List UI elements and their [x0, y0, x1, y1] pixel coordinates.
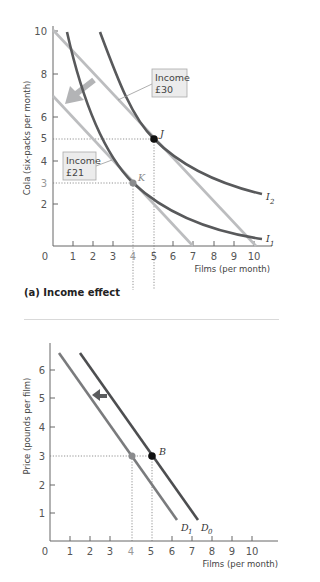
income-box-21: Income £21 — [63, 152, 101, 180]
panel-b-x-tick-3: 3 — [107, 546, 113, 557]
panel-b-y-tick-1: 1 — [39, 508, 45, 519]
label-d1: D 1 — [180, 522, 192, 536]
panel-b-x-tick-2: 2 — [87, 546, 93, 557]
panel-b-y-tick-6: 6 — [39, 365, 45, 376]
panel-b-y-tick-3: 3 — [39, 451, 45, 462]
label-d0: D 0 — [200, 522, 213, 536]
income-box-30: Income £30 — [152, 69, 190, 97]
panel-b-x-axis-label: Films (per month) — [203, 559, 278, 569]
svg-text:£30: £30 — [155, 84, 173, 95]
panel-b-x-tick-4: 4 — [128, 546, 134, 557]
point-demand-d1 — [129, 453, 136, 460]
panel-a-x-tick-8: 8 — [211, 251, 217, 262]
panel-a-y-axis-label: Cola (six-packs per month) — [22, 81, 32, 196]
svg-text:1: 1 — [270, 240, 274, 248]
panel-a-caption: (a) Income effect — [24, 287, 120, 298]
demand-shift-arrow-icon — [92, 389, 107, 401]
panel-b-origin: 0 — [42, 546, 48, 557]
panel-b-x-ticks — [70, 536, 252, 541]
demand-curve-d0 — [80, 353, 198, 520]
svg-text:2: 2 — [269, 198, 275, 206]
panel-b-y-tick-2: 2 — [39, 480, 45, 491]
point-j-label: J — [158, 128, 165, 139]
panel-a-x-tick-6: 6 — [170, 251, 176, 262]
panel-a-y-tick-4: 4 — [41, 156, 47, 167]
label-i2: I 2 — [265, 191, 275, 206]
panel-b-x-tick-6: 6 — [169, 546, 175, 557]
point-b-label: B — [158, 446, 166, 457]
panel-b-y-tick-5: 5 — [39, 393, 45, 404]
panel-b-y-tick-4: 4 — [39, 422, 45, 433]
panel-a-x-tick-10: 10 — [248, 251, 261, 262]
panel-b-guide-lines — [50, 456, 152, 541]
panel-b-x-tick-1: 1 — [67, 546, 73, 557]
panel-a-x-tick-1: 1 — [70, 251, 76, 262]
panel-a-y-tick-5: 5 — [41, 133, 47, 144]
point-j — [150, 135, 158, 143]
svg-text:Income: Income — [66, 155, 101, 166]
panel-divider — [24, 319, 279, 320]
panel-b-x-tick-5: 5 — [148, 546, 154, 557]
panel-a-y-tick-10: 10 — [34, 26, 47, 37]
panel-a-y-tick-3: 3 — [41, 178, 47, 189]
panel-a-x-tick-2: 2 — [90, 251, 96, 262]
indifference-curve-i1 — [67, 32, 262, 239]
point-k-label: K — [137, 172, 146, 183]
svg-text:1: 1 — [188, 528, 192, 536]
panel-b-x-tick-8: 8 — [209, 546, 215, 557]
panel-b-y-axis-label: Price (pounds per film) — [22, 378, 32, 475]
panel-a-y-tick-8: 8 — [41, 69, 47, 80]
panel-a-y-ticks — [53, 31, 58, 204]
panel-b-demand-curve: Price (pounds per film) 6 5 4 3 2 1 0 1 — [22, 343, 278, 569]
panel-a-x-tick-3: 3 — [110, 251, 116, 262]
panel-b-x-tick-10: 10 — [246, 546, 259, 557]
panel-a-origin: 0 — [42, 251, 48, 262]
demand-curve-d1 — [59, 353, 177, 520]
svg-text:£21: £21 — [66, 167, 84, 178]
panel-b-y-ticks — [50, 370, 55, 513]
panel-b-x-tick-9: 9 — [229, 546, 235, 557]
panel-a-income-effect: Cola (six-packs per month) 10 8 6 5 4 3 … — [22, 26, 275, 290]
panel-a-x-tick-7: 7 — [190, 251, 196, 262]
point-b — [148, 452, 156, 460]
panel-a-x-ticks — [73, 241, 254, 246]
panel-a-y-tick-6: 6 — [41, 112, 47, 123]
panel-a-y-tick-2: 2 — [41, 199, 47, 210]
indifference-curve-i2 — [100, 32, 262, 194]
panel-a-x-tick-9: 9 — [231, 251, 237, 262]
svg-text:0: 0 — [208, 528, 213, 536]
panel-a-x-axis-label: Films (per month) — [195, 264, 270, 274]
point-k — [130, 180, 137, 187]
svg-text:Income: Income — [155, 72, 190, 83]
panel-b-x-tick-7: 7 — [189, 546, 195, 557]
